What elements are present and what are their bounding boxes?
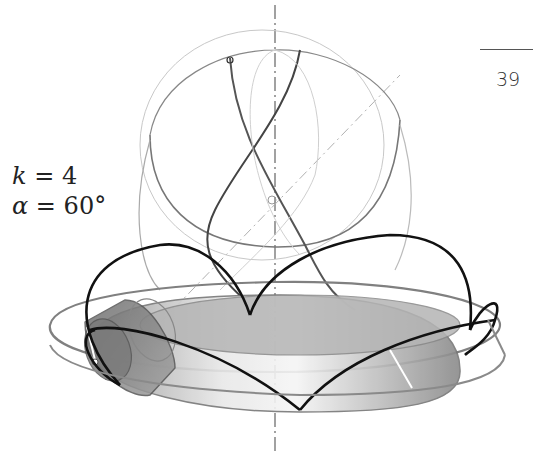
- parameter-k: k = 4: [12, 162, 77, 190]
- param-operator: =: [36, 192, 56, 220]
- param-symbol: α: [12, 192, 28, 220]
- rolling-cylinder-diagram: [0, 0, 533, 472]
- parameter-alpha: α = 60°: [12, 192, 106, 220]
- param-operator: =: [34, 162, 54, 190]
- page-number: 39: [496, 68, 520, 90]
- param-symbol: k: [12, 162, 27, 190]
- param-value: 60°: [64, 192, 107, 220]
- param-value: 4: [62, 162, 77, 190]
- page-rule: [480, 49, 533, 50]
